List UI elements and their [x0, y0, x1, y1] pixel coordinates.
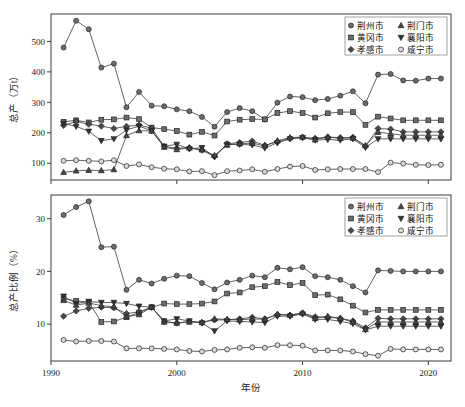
y-tick-label-bottom-2: 30 [36, 214, 46, 224]
data-point-circle [212, 287, 217, 292]
data-point-circle [187, 274, 192, 279]
data-point-circle [162, 104, 167, 109]
legend-label-荆州市: 荆州市 [357, 201, 384, 212]
x-tick-label-1: 2000 [168, 368, 187, 378]
data-point-circle [124, 105, 129, 110]
y-tick-label-bottom-1: 20 [36, 267, 46, 277]
data-point-square [174, 129, 179, 134]
data-point-circle [162, 276, 167, 281]
data-point-circle [350, 284, 355, 289]
data-point-circle-open [426, 163, 431, 168]
data-point-square [388, 116, 393, 121]
data-point-circle [401, 269, 406, 274]
data-point-circle-open [325, 167, 330, 172]
data-point-circle [237, 277, 242, 282]
data-point-square [225, 119, 230, 124]
data-point-square [99, 117, 104, 122]
data-point-square [426, 118, 431, 123]
data-point-square [349, 35, 354, 40]
data-point-circle-open [212, 347, 217, 352]
data-point-circle-open [162, 166, 167, 171]
data-point-circle-open [287, 343, 292, 348]
data-point-circle-open [325, 348, 330, 353]
data-point-square [162, 127, 167, 132]
series-markers-咸宁市 [61, 337, 443, 358]
legend-label-孝感市: 孝感市 [357, 44, 384, 55]
data-point-diamond [111, 125, 117, 131]
data-point-circle [388, 268, 393, 273]
data-point-circle [137, 89, 142, 94]
y-tick-label-top-3: 400 [32, 67, 46, 77]
data-point-square [338, 110, 343, 115]
data-point-square [325, 292, 330, 297]
data-point-circle-open [262, 169, 267, 174]
data-point-circle-open [187, 169, 192, 174]
data-point-square [200, 129, 205, 134]
data-point-circle-open [275, 167, 280, 172]
y-tick-label-top-4: 500 [32, 37, 46, 47]
data-point-circle [212, 124, 217, 129]
data-point-triangle-up [136, 128, 142, 133]
data-point-triangle-down [425, 324, 431, 329]
data-point-circle [149, 281, 154, 286]
data-point-square [111, 117, 116, 122]
x-tick-label-2: 2010 [294, 368, 313, 378]
data-point-circle-open [124, 163, 129, 168]
data-point-circle-open [137, 162, 142, 167]
data-point-circle [413, 78, 418, 83]
data-point-circle [363, 101, 368, 106]
data-point-circle [426, 269, 431, 274]
data-point-square [439, 118, 444, 123]
data-point-triangle-up [86, 167, 92, 172]
data-point-square [237, 117, 242, 122]
data-point-circle [74, 18, 79, 23]
data-point-circle-open [388, 346, 393, 351]
data-point-circle-open [162, 346, 167, 351]
data-point-square [250, 285, 255, 290]
data-point-circle [349, 204, 354, 209]
series-markers-咸宁市 [61, 158, 443, 178]
data-point-circle-open [300, 163, 305, 168]
y-axis-label-top: 总产（万t） [8, 71, 19, 124]
data-point-circle [363, 290, 368, 295]
data-point-circle [325, 275, 330, 280]
data-point-square [262, 284, 267, 289]
data-point-circle [300, 95, 305, 100]
data-point-circle [388, 72, 393, 77]
data-point-circle [61, 45, 66, 50]
data-point-circle [199, 281, 204, 286]
data-point-circle-open [363, 352, 368, 357]
data-point-square [325, 111, 330, 116]
data-point-square [376, 307, 381, 312]
data-point-triangle-down [375, 137, 381, 142]
data-point-circle-open [111, 339, 116, 344]
data-point-circle [111, 244, 116, 249]
data-point-circle [237, 106, 242, 111]
data-point-circle-open [199, 169, 204, 174]
data-point-square [212, 299, 217, 304]
data-point-triangle-up [111, 167, 117, 172]
data-point-square [237, 290, 242, 295]
data-point-triangle-down [86, 129, 92, 134]
legend-label-荆州市: 荆州市 [357, 20, 384, 31]
legend-label-黄冈市: 黄冈市 [357, 32, 384, 43]
data-point-circle [426, 76, 431, 81]
data-point-circle [199, 114, 204, 119]
data-point-circle-open [86, 338, 91, 343]
data-point-circle-open [287, 164, 292, 169]
data-point-circle-open [376, 353, 381, 358]
data-point-square [137, 117, 142, 122]
data-point-circle-open [438, 347, 443, 352]
data-point-circle [86, 199, 91, 204]
data-point-circle-open [401, 161, 406, 166]
data-point-circle [111, 61, 116, 66]
series-line-荆门市 [64, 131, 441, 173]
data-point-circle [338, 277, 343, 282]
data-point-diamond [60, 313, 66, 319]
x-tick-label-3: 2020 [419, 368, 438, 378]
data-point-circle [149, 103, 154, 108]
data-point-circle-open [401, 347, 406, 352]
data-point-square [124, 115, 129, 120]
data-point-circle [413, 269, 418, 274]
data-point-circle-open [399, 47, 404, 52]
